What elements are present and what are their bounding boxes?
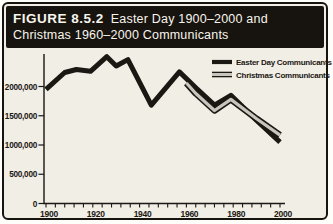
y-tick-label: 1000,000 — [5, 141, 38, 150]
scanned-figure-page: FIGURE 8.5.2Easter Day 1900–2000 and Chr… — [0, 0, 333, 224]
communicants-chart: 0500,0001000,0001500,0002000,00019001920… — [0, 0, 333, 224]
x-tick-label: 2000 — [274, 209, 292, 219]
easter-line — [46, 57, 280, 142]
legend-label-christmas: Christmas Communicants — [236, 71, 330, 80]
y-tick-label: 500,000 — [9, 170, 38, 179]
y-tick-label: 0 — [33, 200, 38, 209]
y-tick-label: 1500,000 — [5, 112, 38, 121]
y-tick-label: 2000,000 — [5, 83, 38, 92]
x-tick-label: 1920 — [87, 209, 105, 219]
x-tick-label: 1940 — [134, 209, 152, 219]
legend-label-easter: Easter Day Communicants — [236, 58, 332, 67]
x-tick-label: 1900 — [40, 209, 58, 219]
x-tick-label: 1980 — [227, 209, 245, 219]
x-tick-label: 1960 — [180, 209, 198, 219]
